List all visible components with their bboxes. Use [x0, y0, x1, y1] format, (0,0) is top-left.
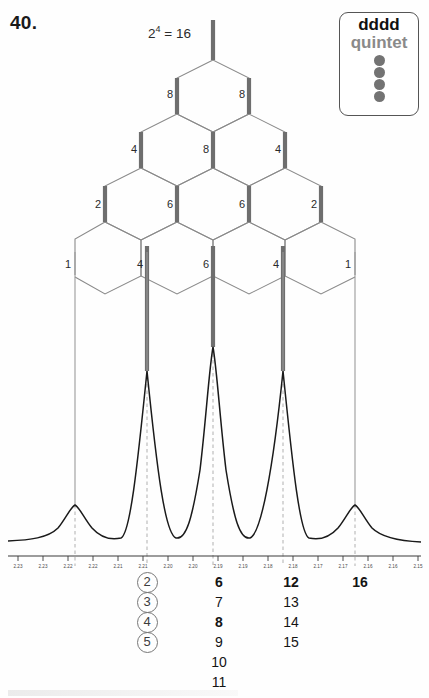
ppm-axis: 2.23 2.23 2.22 2.22 2.21 2.21 2.20 2.20 …: [8, 556, 423, 569]
tick-label: 2.17: [339, 564, 348, 569]
line-count-value: 6: [206, 572, 232, 592]
tree-label-r3-1: 4: [131, 143, 137, 155]
hex-cell-r5-1: [75, 222, 105, 275]
tree-label-r4-2: 6: [167, 198, 173, 210]
tick-label: 2.18: [289, 564, 298, 569]
tree-label-r5-3: 6: [203, 258, 209, 270]
axis-ticks: [18, 556, 418, 561]
line-count-value: 2: [132, 572, 162, 592]
circled-number: 2: [137, 572, 158, 593]
tree-label-r2-2: 8: [239, 88, 245, 100]
line-count-value: 5: [132, 632, 162, 652]
line-count-value: 11: [206, 672, 232, 692]
circled-number: 5: [137, 632, 158, 653]
tree-label-r5-5: 1: [345, 258, 351, 270]
tick-label: 2.23: [14, 564, 23, 569]
tick-label: 2.20: [164, 564, 173, 569]
count-column-c: 12131415: [276, 572, 306, 652]
line-count-value: 13: [276, 592, 306, 612]
line-count-value: 3: [132, 592, 162, 612]
tree-label-r3-3: 4: [275, 143, 281, 155]
nmr-spectrum-trace: [8, 347, 421, 542]
tree-label-r4-3: 6: [239, 198, 245, 210]
count-column-d: 16: [345, 572, 375, 592]
tree-label-r2-1: 8: [167, 88, 173, 100]
tick-label: 2.16: [389, 564, 398, 569]
count-column-b: 67891011: [206, 572, 232, 692]
line-count-value: 4: [132, 612, 162, 632]
tree-label-r5-1: 1: [65, 258, 71, 270]
tick-label: 2.21: [114, 564, 123, 569]
tick-label: 2.16: [364, 564, 373, 569]
line-count-value: 7: [206, 592, 232, 612]
tree-label-r5-4: 4: [273, 258, 279, 270]
circled-number: 4: [137, 612, 158, 633]
line-count-value: 14: [276, 612, 306, 632]
line-count-value: 8: [206, 612, 232, 632]
line-count-columns: 2345 67891011 12131415 16: [0, 572, 429, 692]
tick-label: 2.22: [64, 564, 73, 569]
tree-label-r3-2: 8: [203, 143, 209, 155]
tick-label: 2.19: [239, 564, 248, 569]
page-footer-smudge: [8, 690, 238, 696]
tick-label: 2.23: [39, 564, 48, 569]
tick-label: 2.22: [89, 564, 98, 569]
tick-label: 2.20: [189, 564, 198, 569]
line-count-value: 10: [206, 652, 232, 672]
tree-label-r4-4: 2: [311, 198, 317, 210]
tick-label: 2.18: [264, 564, 273, 569]
line-count-value: 15: [276, 632, 306, 652]
tick-label: 2.15: [414, 564, 423, 569]
peak-guide-lines: [75, 347, 355, 566]
tick-label: 2.19: [214, 564, 223, 569]
circled-number: 3: [137, 592, 158, 613]
line-count-value: 9: [206, 632, 232, 652]
tree-label-r5-2: 4: [137, 258, 143, 270]
count-column-circled: 2345: [132, 572, 162, 652]
accent-edges: [105, 20, 321, 371]
line-count-value: 12: [276, 572, 306, 592]
tree-label-r4-1: 2: [95, 198, 101, 210]
line-count-value: 16: [345, 572, 375, 592]
tick-label: 2.17: [314, 564, 323, 569]
tick-label: 2.21: [139, 564, 148, 569]
